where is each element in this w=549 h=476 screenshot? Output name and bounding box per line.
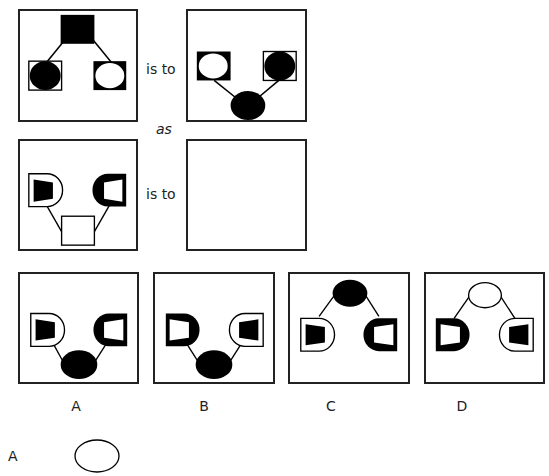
option-b-panel[interactable]	[153, 272, 275, 384]
query-panel	[18, 139, 138, 251]
answer-label: A	[8, 448, 18, 464]
relation-label-1: is to	[146, 61, 176, 77]
option-d-figure	[426, 274, 543, 382]
option-d-panel[interactable]	[424, 272, 545, 384]
filled-circle-icon	[30, 61, 61, 90]
white-square-icon	[62, 216, 95, 245]
option-c-panel[interactable]	[288, 272, 410, 384]
option-c-figure	[290, 274, 408, 382]
filled-circle-icon	[264, 52, 295, 81]
white-circle-icon	[95, 63, 124, 88]
answer-ellipse-icon	[72, 436, 124, 476]
premise-1-figure	[20, 11, 136, 120]
filled-square-icon	[61, 15, 95, 44]
answer-panel-empty[interactable]	[186, 139, 307, 251]
option-a-panel[interactable]	[18, 272, 139, 384]
option-b-label[interactable]: B	[194, 398, 214, 414]
premise-panel-2	[186, 9, 307, 122]
premise-panel-1	[18, 9, 138, 122]
filled-trapezoid-icon	[34, 180, 53, 202]
option-c-label[interactable]: C	[321, 398, 341, 414]
relation-label-2: is to	[146, 186, 176, 202]
option-a-figure	[20, 274, 137, 382]
query-figure	[20, 141, 136, 249]
option-a-label[interactable]: A	[66, 398, 86, 414]
filled-ellipse-icon	[231, 91, 266, 120]
option-b-figure	[155, 274, 273, 382]
connector-label: as	[156, 121, 172, 137]
white-circle-icon	[199, 53, 228, 78]
white-trapezoid-icon	[104, 180, 122, 202]
option-d-label[interactable]: D	[452, 398, 472, 414]
premise-2-figure	[188, 11, 305, 120]
